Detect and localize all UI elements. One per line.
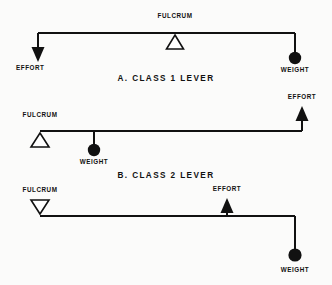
weight-class-1 [289,33,301,64]
fulcrum-triangle-class-1 [167,35,184,49]
weight-ball-class-3 [288,248,301,261]
lever-class-3: FULCRUM EFFORT WEIGHT [23,185,310,273]
fulcrum-label-class-1: FULCRUM [158,12,193,19]
fulcrum-label-class-2: FULCRUM [23,111,58,118]
weight-class-3 [288,216,301,262]
lever-class-2: FULCRUM WEIGHT EFFORT B. CLASS 2 LEVER [23,93,317,180]
weight-ball-class-2 [88,144,100,156]
caption-class-1: A. CLASS 1 LEVER [117,74,214,83]
weight-label-class-2: WEIGHT [80,158,109,165]
effort-arrow-class-3 [221,198,234,216]
effort-label-class-2: EFFORT [288,93,317,100]
lever-diagram-svg: EFFORT FULCRUM WEIGHT A. CLASS 1 LEVER F… [0,0,332,285]
weight-label-class-3: WEIGHT [281,266,310,273]
caption-class-2: B. CLASS 2 LEVER [117,171,214,180]
lever-diagram-figure: EFFORT FULCRUM WEIGHT A. CLASS 1 LEVER F… [0,0,332,285]
effort-arrow-class-2 [296,106,309,131]
effort-label-class-1: EFFORT [16,64,45,71]
weight-ball-class-1 [289,52,301,64]
fulcrum-triangle-class-2 [31,133,49,147]
weight-label-class-1: WEIGHT [281,66,310,73]
effort-arrow-class-1 [32,33,45,62]
lever-class-1: EFFORT FULCRUM WEIGHT A. CLASS 1 LEVER [16,12,309,83]
weight-class-2 [88,131,100,156]
effort-label-class-3: EFFORT [213,185,242,192]
fulcrum-triangle-class-3 [31,200,49,214]
fulcrum-label-class-3: FULCRUM [23,186,58,193]
